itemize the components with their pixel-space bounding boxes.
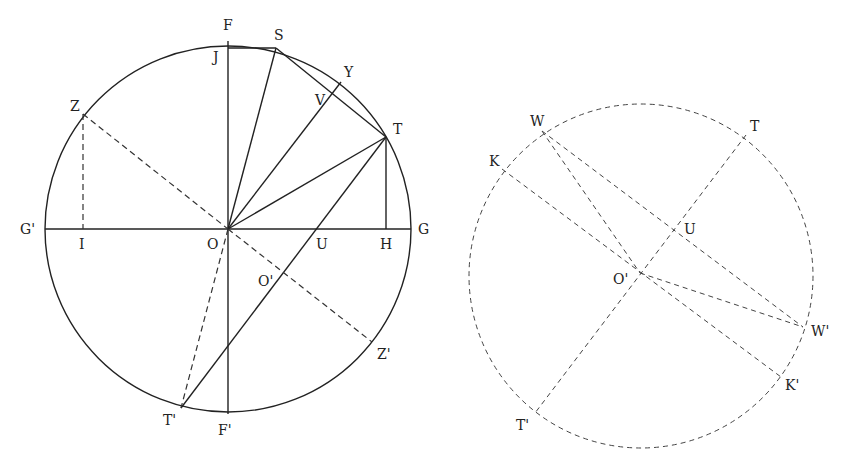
label-T-prime: T' (163, 412, 176, 428)
label-H: H (380, 236, 392, 252)
radius-OT (228, 137, 386, 229)
label-K-prime: K' (785, 377, 799, 393)
label-J: J (211, 49, 219, 65)
label-Y: Y (343, 64, 354, 80)
dashed-TT-prime (535, 135, 746, 413)
label-K: K (489, 153, 500, 169)
label-T-prime: T' (516, 417, 529, 433)
dashed-OT-prime (181, 229, 228, 408)
chord-ST (276, 48, 386, 137)
label-W: W (530, 113, 545, 129)
dashed-ZO (83, 114, 228, 229)
label-O-prime: O' (258, 273, 273, 289)
label-U: U (316, 236, 328, 252)
radius-OS (228, 48, 276, 229)
left-figure: F S J Y V T Z G' I O U H G O' Z' T' F' (20, 17, 429, 438)
right-figure: W T K U O' W' K' T' (469, 104, 829, 448)
dashed-O-prime-W-prime (640, 273, 803, 327)
label-V: V (314, 92, 326, 108)
label-O-prime: O' (613, 271, 628, 287)
label-U: U (684, 221, 696, 237)
label-O: O (207, 236, 218, 252)
label-Z: Z (70, 98, 80, 114)
dashed-WW-prime (542, 131, 803, 327)
dashed-WO-prime (542, 131, 640, 273)
label-S: S (274, 27, 284, 43)
geometry-diagram: F S J Y V T Z G' I O U H G O' Z' T' F' W… (0, 0, 847, 467)
label-T: T (393, 121, 403, 137)
label-F: F (223, 17, 233, 33)
label-I: I (79, 236, 85, 252)
label-T: T (750, 118, 760, 134)
dashed-OZ-prime (228, 229, 372, 342)
label-G-prime: G' (20, 221, 35, 237)
label-W-prime: W' (811, 323, 829, 339)
right-circle (469, 104, 813, 448)
label-F-prime: F' (218, 422, 232, 438)
label-Z-prime: Z' (377, 346, 391, 362)
label-G: G (418, 221, 429, 237)
